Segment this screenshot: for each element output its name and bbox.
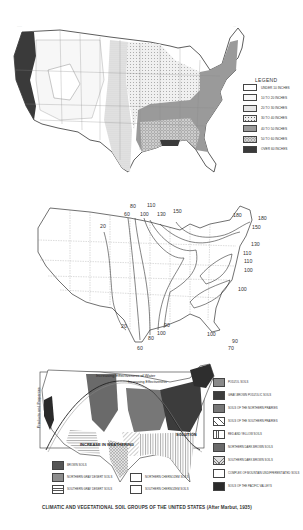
legend-label: SOILS OF THE NORTHERN PRAIRIES [228, 407, 270, 410]
legend-item: SOUTHERN DARK BROWN SOILS [213, 456, 270, 465]
legend-label: 40 TO 50 INCHES [261, 127, 287, 131]
region-over-60-gulf [160, 140, 180, 146]
legend-item: 40 TO 50 INCHES [243, 125, 287, 132]
legend-swatch [213, 417, 225, 426]
legend-label: 30 TO 40 INCHES [261, 116, 287, 120]
contour-label: 90 [232, 338, 238, 344]
contour-label: 100 [244, 267, 253, 273]
legend-label: SOILS OF THE PACIFIC VALLEYS [228, 485, 270, 488]
legend-item: NORTHERN GRAY DESERT SOILS [52, 473, 109, 482]
contour-label: 20 [100, 223, 106, 229]
contour-label: 150 [173, 208, 182, 214]
legend-item: OVER 60 INCHES [243, 146, 287, 153]
legend-swatch [130, 473, 142, 482]
legend-label: SOUTHERN DARK BROWN SOILS [228, 459, 270, 462]
contour-label: 70 [228, 345, 234, 351]
legend-label: NORTHERN GRAY DESERT SOILS [67, 476, 109, 479]
contour-label: 60 [124, 211, 130, 217]
legend-item: 30 TO 40 INCHES [243, 115, 287, 122]
annotation-top-1: Increasing Effectiveness of Water [96, 373, 156, 378]
legend-label: BROWN SOILS [67, 464, 109, 467]
legend-swatch [213, 443, 225, 452]
legend-item: 10 TO 20 INCHES [243, 94, 287, 101]
legend-item: SOILS OF THE NORTHERN PRAIRIES [213, 404, 270, 413]
annotation-top-2: Increasing Effectiveness [128, 380, 167, 384]
precip-legend-title: LEGEND [255, 77, 277, 83]
contour-label: 110 [243, 250, 251, 256]
legend-item: SOUTHERN GRAY DESERT SOILS [52, 485, 109, 494]
annotation-side: Products and Properties [37, 387, 41, 428]
legend-label: SOUTHERN GRAY DESERT SOILS [67, 488, 109, 491]
precipitation-map: LEGEND UNDER 10 INCHES10 TO 20 INCHES20 … [0, 0, 303, 180]
legend-item: COMPLEX OF MOUNTAIN UNDIFFERENTIATED SOI… [213, 469, 270, 478]
region-50-60 [140, 118, 200, 152]
contour-label: 100 [238, 286, 247, 292]
contour-label: 80 [130, 203, 136, 209]
figure-caption: CLIMATIC AND VEGETATIONAL SOIL GROUPS OF… [42, 505, 252, 510]
legend-item: SOILS OF THE PACIFIC VALLEYS [213, 482, 270, 491]
legend-swatch [213, 430, 225, 439]
legend-swatch [213, 404, 225, 413]
legend-swatch [243, 136, 257, 143]
legend-label: UNDER 10 INCHES [261, 86, 290, 90]
legend-item: NORTHERN CHERNOZEM SOILS [130, 473, 187, 482]
legend-swatch [243, 146, 257, 153]
contour-label: 180 [233, 212, 242, 218]
legend-swatch [213, 482, 225, 491]
contour-label: 90 [164, 322, 170, 328]
legend-label: SOUTHERN CHERNOZEM SOILS [145, 488, 187, 491]
legend-label: 10 TO 20 INCHES [261, 96, 287, 100]
legend-item: PODZOL SOILS [213, 378, 270, 387]
legend-swatch [213, 456, 225, 465]
legend-label: SOILS OF THE SOUTHERN PRAIRIES [228, 420, 270, 423]
contour-label: 180 [258, 215, 267, 221]
legend-label: OVER 60 INCHES [261, 147, 287, 151]
legend-swatch [52, 473, 64, 482]
contour-label: 100 [207, 331, 216, 337]
contour-label: 110 [147, 202, 155, 208]
legend-swatch [52, 461, 64, 470]
legend-label: 50 TO 60 INCHES [261, 137, 287, 141]
legend-item: 50 TO 60 INCHES [243, 136, 287, 143]
legend-label: 20 TO 30 INCHES [261, 106, 287, 110]
contour-label: 100 [140, 211, 149, 217]
contour-label: 150 [252, 224, 261, 230]
legend-swatch [243, 115, 257, 122]
legend-swatch [243, 125, 257, 132]
legend-item: RED AND YELLOW SOILS [213, 430, 270, 439]
contour-label: 110 [244, 258, 252, 264]
legend-swatch [213, 391, 225, 400]
legend-item: 20 TO 30 INCHES [243, 105, 287, 112]
legend-swatch [213, 469, 225, 478]
legend-item: UNDER 10 INCHES [243, 84, 290, 91]
legend-swatch [213, 378, 225, 387]
contour-label: 130 [157, 211, 166, 217]
legend-swatch [243, 105, 257, 112]
legend-item: GRAY-BROWN PODZOLIC SOILS [213, 391, 270, 400]
legend-swatch [243, 84, 257, 91]
legend-item: NORTHERN DARK BROWN SOILS [213, 443, 270, 452]
legend-label: NORTHERN DARK BROWN SOILS [228, 446, 270, 449]
legend-label: COMPLEX OF MOUNTAIN UNDIFFERENTIATED SOI… [228, 472, 270, 475]
legend-label: RED AND YELLOW SOILS [228, 433, 270, 436]
contour-label: 130 [251, 241, 260, 247]
annotation-bottom: INCREASE IN WEATHERING [80, 442, 134, 447]
annotation-right: SOLUTION [176, 432, 197, 437]
contour-label: 20 [121, 323, 127, 329]
legend-label: GRAY-BROWN PODZOLIC SOILS [228, 394, 270, 397]
legend-swatch [130, 485, 142, 494]
legend-label: NORTHERN CHERNOZEM SOILS [145, 476, 187, 479]
legend-item: BROWN SOILS [52, 461, 109, 470]
isoline-map: 2020608010011013015018018015013011011010… [0, 180, 303, 365]
legend-item: SOILS OF THE SOUTHERN PRAIRIES [213, 417, 270, 426]
contour-label: 80 [148, 335, 154, 341]
contour-label: 60 [137, 345, 143, 351]
legend-label: PODZOL SOILS [228, 381, 270, 384]
contour-label: 100 [157, 330, 166, 336]
legend-swatch [52, 485, 64, 494]
legend-swatch [243, 94, 257, 101]
legend-item: SOUTHERN CHERNOZEM SOILS [130, 485, 187, 494]
